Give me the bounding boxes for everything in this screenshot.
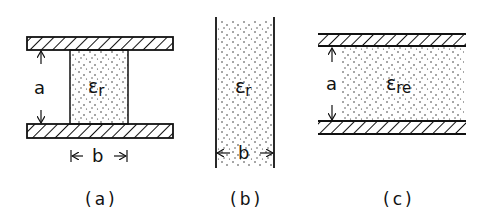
panel-b: εr b (b)	[216, 17, 274, 209]
height-label: a	[34, 77, 45, 98]
top-plate	[27, 37, 173, 50]
width-label: b	[92, 145, 103, 166]
top-plate	[318, 34, 466, 46]
dielectric-diagram: εr a b (a) εr b (b) εre	[0, 0, 488, 224]
width-label: b	[238, 142, 249, 163]
caption-b: (b)	[230, 189, 263, 209]
height-label: a	[326, 73, 337, 94]
bottom-plate	[318, 121, 466, 134]
panel-c: εre a (c)	[318, 34, 466, 209]
caption-a: (a)	[85, 189, 118, 209]
panel-a: εr a b (a)	[27, 37, 173, 209]
caption-c: (c)	[383, 189, 415, 209]
bottom-plate	[27, 124, 173, 138]
